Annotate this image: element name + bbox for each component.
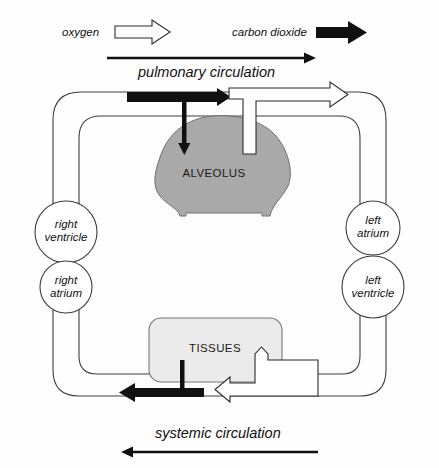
chamber-right-ventricle-label-line1: right	[55, 218, 78, 230]
alveolus-group: ALVEOLUS	[155, 116, 290, 216]
legend-carbon-dioxide-label: carbon dioxide	[232, 26, 307, 38]
systemic-circulation-label: systemic circulation	[155, 425, 281, 441]
pulmonary-circulation-group: pulmonary circulation	[107, 53, 316, 81]
pulmonary-circulation-label: pulmonary circulation	[137, 64, 275, 80]
diagram-canvas: oxygen carbon dioxide pulmonary circulat…	[0, 0, 439, 468]
legend-oxygen-label: oxygen	[62, 26, 99, 38]
chamber-right-ventricle-label-line2: ventricle	[45, 231, 88, 243]
chamber-right-atrium-label-line1: right	[55, 274, 78, 286]
co2-tissue-arrow-head-left-icon	[119, 383, 135, 402]
co2-arrow-shaft-vertical	[182, 97, 187, 145]
co2-tissue-shaft-horizontal	[135, 388, 204, 397]
systemic-direction-arrow-head-icon	[121, 447, 133, 458]
co2-tissue-shaft-vertical	[180, 360, 185, 392]
co2-arrow-shaft-horizontal	[127, 92, 217, 102]
chamber-left-atrium-label-line1: left	[365, 214, 381, 226]
circulation-diagram: oxygen carbon dioxide pulmonary circulat…	[0, 0, 439, 468]
chamber-right-atrium-label-line2: atrium	[50, 287, 82, 299]
chamber-left-atrium-label-line2: atrium	[357, 227, 389, 239]
solid-arrow-right-icon	[316, 21, 367, 44]
vessel-outer-bottom-left	[53, 300, 135, 396]
tissues-label: TISSUES	[189, 342, 241, 354]
alveolus-label: ALVEOLUS	[182, 167, 245, 179]
alveolus-shape[interactable]	[155, 116, 290, 216]
open-arrow-right-icon	[115, 20, 170, 44]
systemic-circulation-group: systemic circulation	[121, 425, 318, 458]
o2-out-of-alveolus-arrow	[229, 82, 348, 154]
chamber-left-ventricle-label-line1: left	[365, 274, 381, 286]
legend: oxygen carbon dioxide	[62, 20, 367, 44]
o2-arrow-open-path	[229, 82, 348, 154]
chamber-left-ventricle-label-line2: ventricle	[352, 287, 395, 299]
heart-chambers: right ventricle right atrium left atrium…	[35, 201, 404, 318]
pulmonary-direction-arrow-head-icon	[304, 53, 316, 64]
